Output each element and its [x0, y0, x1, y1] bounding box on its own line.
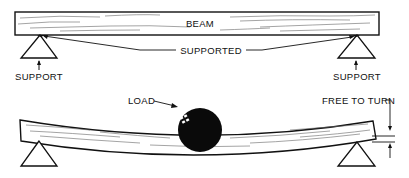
- load-label: LOAD: [128, 95, 155, 106]
- beam-label: BEAM: [186, 18, 214, 29]
- left-support-arrow: [37, 60, 41, 70]
- load-arrow: [154, 101, 178, 108]
- load-ball: [178, 108, 222, 152]
- left-support-label: SUPPORT: [15, 71, 63, 82]
- left-support-triangle: [21, 35, 57, 58]
- free-to-turn-dimension: [372, 100, 395, 158]
- right-support-arrow: [354, 60, 358, 70]
- bottom-right-support-triangle: [338, 142, 375, 166]
- right-support-label: SUPPORT: [333, 71, 381, 82]
- free-to-turn-label: FREE TO TURN: [322, 95, 395, 106]
- supported-label: SUPPORTED: [180, 45, 242, 56]
- beam-diagram: BEAM SUPPORT SUPPORT SUPPORTED: [0, 0, 409, 178]
